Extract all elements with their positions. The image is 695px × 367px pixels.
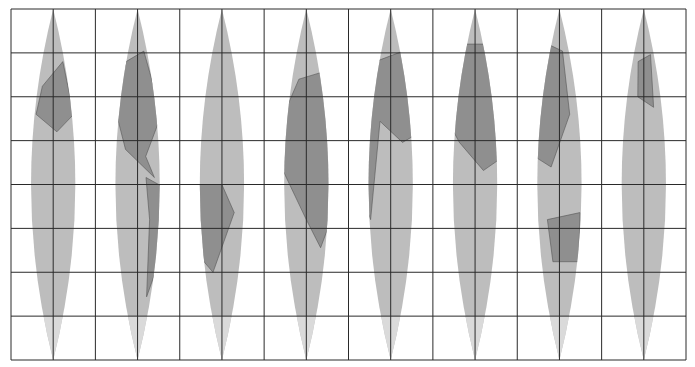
landmass [547, 213, 580, 262]
world-map [0, 0, 695, 367]
